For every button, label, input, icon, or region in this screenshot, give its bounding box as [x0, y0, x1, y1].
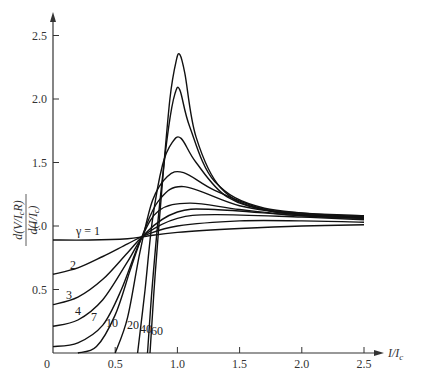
- x-tick-label: 0.5: [108, 357, 123, 371]
- curve-label: 10: [106, 316, 118, 330]
- x-tick-label: 2.5: [357, 357, 372, 371]
- curves: [53, 54, 364, 353]
- x-tick-label: 1.0: [170, 357, 185, 371]
- curve-label: 20: [127, 318, 139, 332]
- tick-labels: 0.51.01.52.02.50.51.01.52.02.5: [32, 29, 372, 372]
- curve: [78, 187, 364, 353]
- curve-label: 2: [70, 258, 76, 272]
- curve-label: 7: [91, 310, 97, 324]
- y-tick-label: 2.0: [32, 92, 47, 106]
- curve-label: γ = 1: [75, 224, 100, 238]
- curve-label: 3: [66, 288, 72, 302]
- y-tick-label: 0.5: [32, 283, 47, 297]
- y-tick-label: 2.5: [32, 29, 47, 43]
- svg-text:d(V/IcR): d(V/IcR): [11, 200, 26, 240]
- origin-label: 0: [44, 357, 50, 371]
- curve-label: 4: [75, 304, 81, 318]
- y-axis-arrow-icon: [50, 12, 56, 22]
- x-axis-label: I/Ic: [387, 346, 403, 362]
- y-tick-label: 1.5: [32, 156, 47, 170]
- curve-label: 60: [151, 324, 163, 338]
- x-axis-arrow-icon: [374, 350, 384, 356]
- svg-text:d(I/Ic): d(I/Ic): [26, 206, 41, 235]
- y-axis-label: d(V/IcR) d(I/Ic): [11, 194, 41, 246]
- curve: [138, 137, 364, 353]
- x-tick-label: 1.5: [232, 357, 247, 371]
- curve-labels: γ = 1234710204060: [66, 224, 163, 338]
- x-tick-label: 2.0: [294, 357, 309, 371]
- chart: 0.51.01.52.02.50.51.01.52.02.5 γ = 12347…: [0, 0, 424, 379]
